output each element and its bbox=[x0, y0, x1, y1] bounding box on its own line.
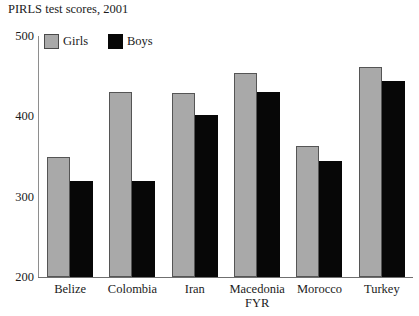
x-axis-label-line: Morocco bbox=[288, 283, 350, 297]
bar-girls-turkey bbox=[359, 67, 382, 277]
x-axis-label-line: Belize bbox=[39, 283, 101, 297]
x-axis-label-belize: Belize bbox=[39, 283, 101, 297]
x-axis-label-line: FYR bbox=[226, 297, 288, 311]
y-axis-tick-200: 200 bbox=[15, 271, 34, 284]
y-axis-tick-labels: 200300400500 bbox=[0, 0, 34, 316]
x-axis-label-macedonia-fyr: MacedoniaFYR bbox=[226, 283, 288, 310]
plot-area bbox=[39, 36, 413, 277]
y-axis-tick-300: 300 bbox=[15, 191, 34, 204]
x-axis-label-iran: Iran bbox=[164, 283, 226, 297]
y-axis-tick-500: 500 bbox=[15, 30, 34, 43]
bar-girls-macedonia-fyr bbox=[234, 73, 257, 277]
x-axis-label-turkey: Turkey bbox=[351, 283, 413, 297]
x-axis-label-line: Macedonia bbox=[226, 283, 288, 297]
bar-girls-belize bbox=[47, 157, 70, 278]
bar-girls-iran bbox=[172, 93, 195, 277]
bar-boys-turkey bbox=[382, 81, 405, 277]
bar-girls-colombia bbox=[109, 92, 132, 277]
x-axis-label-line: Iran bbox=[164, 283, 226, 297]
bar-group bbox=[164, 36, 226, 277]
bar-group bbox=[226, 36, 288, 277]
bar-boys-macedonia-fyr bbox=[257, 92, 280, 277]
bar-group bbox=[101, 36, 163, 277]
x-axis-label-line: Turkey bbox=[351, 283, 413, 297]
bar-group bbox=[39, 36, 101, 277]
bar-boys-colombia bbox=[132, 181, 155, 277]
x-axis-label-morocco: Morocco bbox=[288, 283, 350, 297]
bar-boys-belize bbox=[70, 181, 93, 277]
bar-boys-morocco bbox=[319, 161, 342, 277]
x-axis-label-colombia: Colombia bbox=[101, 283, 163, 297]
x-axis-label-line: Colombia bbox=[101, 283, 163, 297]
bar-girls-morocco bbox=[296, 146, 319, 277]
bar-chart: PIRLS test scores, 2001 200300400500 Gir… bbox=[0, 0, 419, 316]
bar-group bbox=[351, 36, 413, 277]
x-axis-line bbox=[38, 277, 413, 278]
bar-group bbox=[288, 36, 350, 277]
y-axis-tick-400: 400 bbox=[15, 110, 34, 123]
bar-boys-iran bbox=[195, 115, 218, 277]
